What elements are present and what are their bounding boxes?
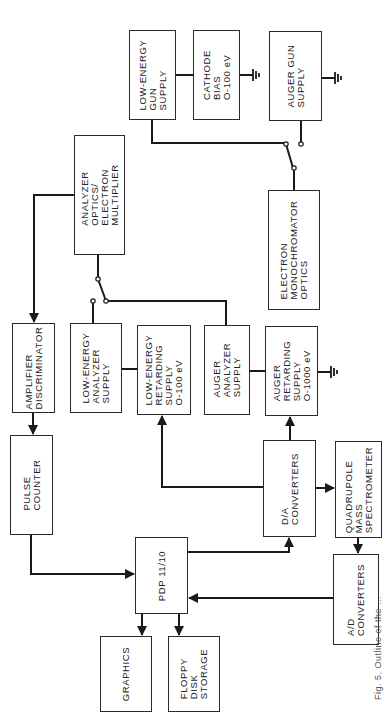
block-label: GRAPHICS [121, 647, 131, 701]
low-energy-gun-supply-block: LOW-ENERGY GUN SUPPLY [129, 30, 176, 120]
block-label: PDP 11/10 [157, 550, 167, 600]
amplifier-discriminator-block: AMPLIFIER DISCRIMINATOR [12, 323, 55, 413]
floppy-disk-storage-block: FLOPPY DISK STORAGE [168, 636, 220, 712]
auger-analyzer-supply-block: AUGER ANALYZER SUPPLY [204, 325, 250, 415]
block-label: FLOPPY DISK STORAGE [179, 649, 209, 699]
cathode-bias-block: CATHODE BIAS O-100 eV [193, 30, 240, 120]
da-converters-block: D/A CONVERTERS [263, 440, 316, 537]
low-energy-analyzer-supply-block: LOW-ENERGY ANALYZER SUPPLY [70, 323, 122, 413]
block-label: LOW-ENERGY ANALYZER SUPPLY [81, 333, 111, 404]
block-label: LOW-ENERGY RETARDING SUPPLY O-100 eV [144, 335, 184, 406]
auger-gun-supply-block: AUGER GUN SUPPLY [269, 31, 322, 121]
analyzer-optics-block: ANALYZER OPTICS/ ELECTRON MULTIPLIER [74, 135, 125, 255]
block-label: QUADRUPOLE MASS SPECTROMETER [344, 446, 374, 532]
quadrupole-mass-spectrometer-block: QUADRUPOLE MASS SPECTROMETER [335, 441, 382, 538]
block-label: AUGER RETARDING SUPPLY O-1000 eV [272, 341, 312, 402]
block-label: AMPLIFIER DISCRIMINATOR [24, 327, 44, 410]
figure-caption: Fig. 5. Outline of the ... [373, 596, 383, 700]
block-label: PULSE COUNTER [22, 459, 42, 510]
pdp-11-10-block: PDP 11/10 [135, 537, 188, 614]
graphics-block: GRAPHICS [100, 636, 152, 712]
pulse-counter-block: PULSE COUNTER [10, 435, 53, 535]
block-label: D/A CONVERTERS [280, 453, 300, 525]
block-label: AUGER GUN SUPPLY [286, 45, 306, 108]
electron-monochromator-block: ELECTRON MONOCHROMATOR OPTICS [268, 190, 320, 310]
block-label: LOW-ENERGY GUN SUPPLY [138, 40, 168, 111]
low-energy-retarding-supply-block: LOW-ENERGY RETARDING SUPPLY O-100 eV [137, 325, 191, 415]
block-label: AUGER ANALYZER SUPPLY [212, 343, 242, 397]
auger-retarding-supply-block: AUGER RETARDING SUPPLY O-1000 eV [265, 326, 318, 416]
block-label: A/D CONVERTERS [346, 564, 366, 636]
block-label: ANALYZER OPTICS/ ELECTRON MULTIPLIER [80, 164, 120, 225]
block-label: CATHODE BIAS O-100 eV [202, 50, 232, 100]
block-label: ELECTRON MONOCHROMATOR OPTICS [279, 201, 309, 300]
